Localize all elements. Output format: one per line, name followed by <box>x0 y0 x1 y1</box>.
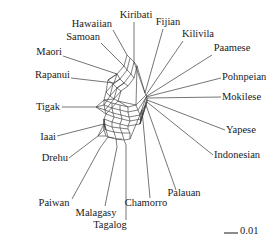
taxon-label-yapese: Yapese <box>226 124 256 135</box>
leader-line-kilivila <box>146 41 183 95</box>
taxon-label-iaai: Iaai <box>40 131 56 142</box>
taxon-label-drehu: Drehu <box>42 152 68 163</box>
leader-line-samoan <box>101 43 124 66</box>
leader-line-drehu <box>69 136 98 158</box>
taxon-label-palauan: Palauan <box>167 187 200 198</box>
taxon-label-kiribati: Kiribati <box>120 9 153 20</box>
leader-line-paiwan <box>72 148 100 199</box>
taxon-label-tagalog: Tagalog <box>93 219 127 230</box>
split-network-figure: HawaiianSamoanMaoriRapanuiTigakKiribatiF… <box>0 0 276 251</box>
leader-line-pohnpeian <box>146 78 221 97</box>
leader-line-mokilese <box>147 97 221 98</box>
leader-line-chamorro <box>142 110 150 198</box>
leader-line-paamese <box>147 55 212 96</box>
taxon-label-kilivila: Kilivila <box>182 28 214 39</box>
leader-line-yapese <box>147 100 225 130</box>
leader-line-malagasy <box>105 147 117 206</box>
leader-line-maori <box>63 56 117 74</box>
taxon-label-pohnpeian: Pohnpeian <box>222 71 266 82</box>
taxon-label-rapanui: Rapanui <box>35 69 70 80</box>
taxon-label-mokilese: Mokilese <box>222 91 261 102</box>
leader-line-hawaiian <box>113 30 127 55</box>
taxon-label-chamorro: Chamorro <box>125 197 168 208</box>
taxon-label-paiwan: Paiwan <box>39 197 70 208</box>
taxon-label-paamese: Paamese <box>214 42 251 53</box>
leader-line-iaai <box>57 124 104 136</box>
leader-line-indonesian <box>147 102 213 155</box>
taxon-label-indonesian: Indonesian <box>214 149 260 160</box>
taxon-label-fijian: Fijian <box>156 16 181 27</box>
network-core-lattice <box>96 55 147 148</box>
taxon-label-malagasy: Malagasy <box>76 207 117 218</box>
leader-line-palauan <box>146 105 176 190</box>
taxon-label-samoan: Samoan <box>66 31 100 42</box>
taxon-label-maori: Maori <box>36 46 62 57</box>
scale-bar-label: 0.01 <box>240 225 258 236</box>
taxon-label-tigak: Tigak <box>36 101 60 112</box>
taxon-label-hawaiian: Hawaiian <box>72 18 112 29</box>
